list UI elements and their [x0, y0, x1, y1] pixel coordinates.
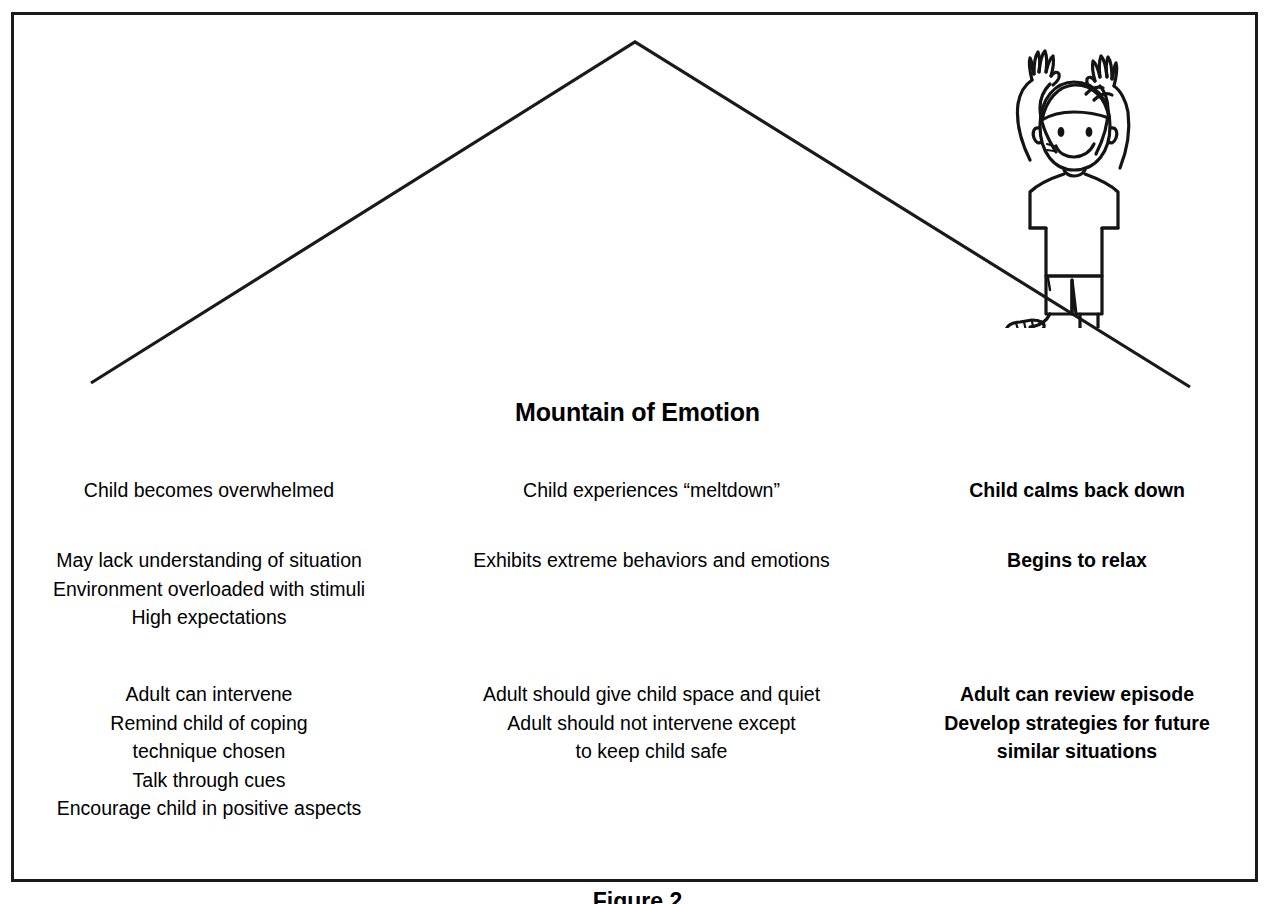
- smile: [1056, 144, 1094, 157]
- back-sandal-strap-3: [1032, 321, 1034, 328]
- text-line: similar situations: [899, 737, 1255, 766]
- text-line: Remind child of coping: [14, 709, 404, 738]
- column-descent-block-1: Child calms back down: [899, 476, 1255, 505]
- text-line: Adult can intervene: [14, 680, 404, 709]
- figure-caption: Figure 2: [0, 888, 1275, 904]
- text-line: Begins to relax: [899, 546, 1255, 575]
- back-sandal-strap-2: [1024, 322, 1027, 328]
- column-peak-block-3: Adult should give child space and quiet …: [404, 680, 899, 766]
- column-ascent-block-1: Child becomes overwhelmed: [14, 476, 404, 505]
- shorts: [1046, 276, 1102, 314]
- column-peak-block-1: Child experiences “meltdown”: [404, 476, 899, 505]
- column-ascent-block-3: Adult can intervene Remind child of copi…: [14, 680, 404, 823]
- column-descent-block-3: Adult can review episode Develop strateg…: [899, 680, 1255, 766]
- column-ascent-block-2: May lack understanding of situation Envi…: [14, 546, 404, 632]
- child-walking-icon: [968, 28, 1168, 328]
- left-eye: [1058, 127, 1065, 137]
- right-arm-outer: [1114, 86, 1129, 168]
- text-line: Adult should give child space and quiet: [404, 680, 899, 709]
- text-line: to keep child safe: [404, 737, 899, 766]
- text-line: Adult can review episode: [899, 680, 1255, 709]
- cheek-line-2: [1047, 150, 1054, 151]
- text-line: High expectations: [14, 603, 404, 632]
- text-line: Child becomes overwhelmed: [14, 476, 404, 505]
- text-line: Environment overloaded with stimuli: [14, 575, 404, 604]
- column-descent-block-2: Begins to relax: [899, 546, 1255, 575]
- left-thumb: [1051, 72, 1059, 85]
- right-eye: [1086, 127, 1093, 137]
- text-line: Talk through cues: [14, 766, 404, 795]
- shirt: [1030, 174, 1118, 276]
- text-line: Encourage child in positive aspects: [14, 794, 404, 823]
- figure-title: Mountain of Emotion: [0, 398, 1275, 427]
- text-line: Exhibits extreme behaviors and emotions: [404, 546, 899, 575]
- shorts-fold: [1048, 278, 1050, 290]
- back-sandal-strap-1: [1016, 323, 1020, 328]
- left-arm-outer: [1018, 80, 1033, 160]
- text-line: technique chosen: [14, 737, 404, 766]
- text-line: Develop strategies for future: [899, 709, 1255, 738]
- text-line: May lack understanding of situation: [14, 546, 404, 575]
- text-line: Child experiences “meltdown”: [404, 476, 899, 505]
- column-peak-block-2: Exhibits extreme behaviors and emotions: [404, 546, 899, 575]
- text-line: Adult should not intervene except: [404, 709, 899, 738]
- text-line: Child calms back down: [899, 476, 1255, 505]
